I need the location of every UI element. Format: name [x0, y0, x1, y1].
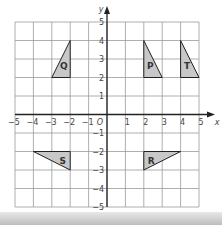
x-tick-label: −2 — [63, 118, 75, 127]
triangle-label: S — [60, 156, 66, 166]
x-tick-label: −4 — [27, 118, 39, 127]
y-tick-label: −1 — [92, 129, 104, 138]
triangle-label: P — [147, 61, 154, 71]
x-tick-label: −3 — [45, 118, 57, 127]
y-tick-label: −5 — [92, 203, 104, 212]
x-axis-label: x — [214, 118, 220, 127]
triangle-label: Q — [60, 61, 68, 71]
coordinate-grid: QPTSR −5−4−3−2−11234554321−1−2−3−4−5Oxy — [0, 0, 222, 212]
triangle-label: T — [184, 61, 191, 71]
x-tick-label: −5 — [8, 118, 20, 127]
y-tick-label: 4 — [99, 37, 104, 46]
x-tick-label: 5 — [198, 118, 203, 127]
x-tick-label: −1 — [82, 118, 94, 127]
x-tick-label: 1 — [125, 118, 130, 127]
bottom-shadow-band — [0, 212, 222, 225]
y-axis-label: y — [98, 5, 104, 14]
y-axis-arrow-icon — [104, 6, 110, 14]
y-tick-label: 5 — [99, 18, 104, 27]
y-tick-label: 3 — [99, 55, 104, 64]
y-tick-label: −2 — [92, 148, 104, 157]
y-tick-label: 2 — [99, 74, 104, 83]
y-tick-label: 1 — [99, 92, 104, 101]
x-tick-label: 3 — [162, 118, 167, 127]
x-tick-label: 2 — [143, 118, 148, 127]
x-tick-label: 4 — [180, 118, 185, 127]
triangle-label: R — [148, 156, 155, 166]
tick-labels: −5−4−3−2−11234554321−1−2−3−4−5Oxy — [8, 5, 220, 212]
origin-label: O — [97, 118, 103, 127]
y-tick-label: −4 — [92, 185, 104, 194]
axes — [15, 6, 215, 207]
triangles: QPTSR — [33, 41, 199, 171]
y-tick-label: −3 — [92, 166, 104, 175]
